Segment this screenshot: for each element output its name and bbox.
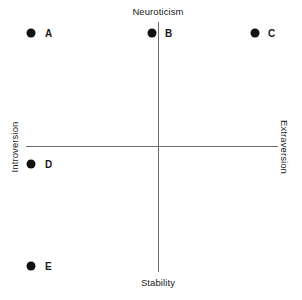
- data-point-label-b: B: [165, 28, 172, 39]
- horizontal-axis: [26, 146, 278, 147]
- axis-label-introversion: Introversion: [9, 96, 20, 147]
- vertical-axis: [158, 22, 159, 272]
- data-point-label-c: C: [268, 28, 275, 39]
- personality-quadrant-chart: Neuroticism Stability Introversion Extra…: [0, 0, 302, 300]
- axis-label-extraversion: Extraversion: [279, 147, 290, 201]
- data-point-label-a: A: [45, 28, 52, 39]
- data-point-d: [27, 160, 36, 169]
- data-point-b: [148, 29, 157, 38]
- axis-label-stability: Stability: [141, 277, 175, 288]
- data-point-a: [27, 29, 36, 38]
- axis-label-neuroticism: Neuroticism: [132, 6, 183, 17]
- data-point-c: [251, 29, 260, 38]
- data-point-e: [27, 262, 36, 271]
- data-point-label-d: D: [45, 159, 52, 170]
- data-point-label-e: E: [45, 261, 52, 272]
- axis-label-introversion-text: Introversion: [9, 122, 20, 173]
- axis-label-extraversion-text: Extraversion: [279, 120, 290, 174]
